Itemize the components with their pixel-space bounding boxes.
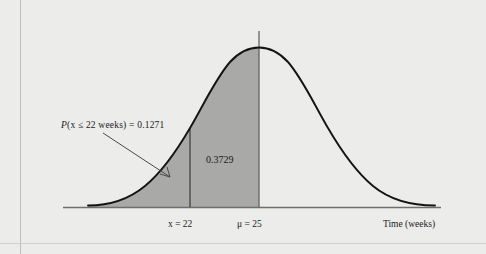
probability-expression: (x ≤ 22 weeks) = 0.1271: [67, 120, 165, 130]
middle-area-label: 0.3729: [206, 155, 234, 165]
x-axis-tick-x-value: x = 22: [168, 220, 192, 230]
left-tail-probability-label: P(x ≤ 22 weeks) = 0.1271: [61, 121, 165, 131]
normal-distribution-figure: P(x ≤ 22 weeks) = 0.1271 0.3729 x = 22 μ…: [0, 0, 486, 254]
annotation-leader-line: [103, 133, 170, 177]
x-axis-tick-mean: μ = 25: [237, 220, 262, 230]
x-axis-title: Time (weeks): [383, 220, 435, 230]
